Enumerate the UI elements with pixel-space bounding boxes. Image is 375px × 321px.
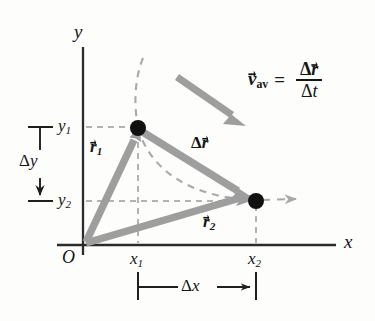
equation-v-symbol: v — [248, 69, 256, 88]
delta-r-base: r — [202, 134, 209, 151]
tick-x1-base: x — [130, 249, 138, 268]
vector-v-av — [177, 77, 246, 126]
delta-x-delta-symbol: Δ — [181, 276, 192, 295]
vectors — [86, 77, 254, 243]
vector-r1-base: r — [90, 138, 97, 155]
vector-label-r1: r 1 — [90, 138, 102, 157]
tick-x2-sub: 2 — [256, 257, 262, 269]
equation-denominator: Δt — [297, 81, 322, 100]
vector-label-delta-r: Δ r — [191, 134, 208, 151]
vector-r2 — [86, 190, 254, 243]
delta-y-symbol: y — [30, 151, 38, 170]
equation-v-term: v av — [248, 69, 268, 91]
vector-r2-sub: 2 — [210, 220, 216, 232]
average-velocity-equation: v av = Δ r — [248, 60, 322, 100]
equation-fraction: Δ r Δt — [296, 60, 322, 100]
numerator-r-symbol: r — [311, 60, 318, 78]
equation-v-subscript: av — [256, 78, 268, 91]
delta-x-symbol: x — [192, 276, 200, 295]
vector-label-r2: r 2 — [203, 213, 215, 232]
vector-r1-sub: 1 — [97, 145, 103, 157]
equation-numerator: Δ r — [296, 60, 322, 79]
denominator-t-symbol: t — [312, 81, 317, 101]
vector-r2-base: r — [203, 213, 210, 230]
delta-x-label: Δx — [181, 277, 199, 294]
tick-y1-sub: 1 — [66, 124, 72, 136]
tick-label-x2: x2 — [248, 250, 261, 269]
delta-r-delta-symbol: Δ — [191, 133, 202, 152]
tick-y1-base: y — [58, 116, 66, 135]
point-2-dot — [248, 193, 264, 209]
diagram-canvas — [0, 0, 375, 321]
delta-y-delta-symbol: Δ — [19, 151, 30, 170]
numerator-delta-symbol: Δ — [300, 59, 311, 79]
equation-equals-sign: = — [274, 69, 285, 91]
origin-label: O — [62, 248, 75, 266]
point-1-dot — [130, 120, 146, 136]
tick-label-y1: y1 — [58, 117, 71, 136]
y-axis-label: y — [74, 22, 82, 41]
delta-y-label: Δy — [19, 152, 37, 169]
tick-x2-base: x — [248, 249, 256, 268]
tick-label-y2: y2 — [58, 191, 71, 210]
tick-x1-sub: 1 — [138, 257, 144, 269]
vector-diagram-figure: y x O y1 y2 x1 x2 r 1 r 2 — [0, 0, 375, 321]
tick-label-x1: x1 — [130, 250, 143, 269]
tick-y2-sub: 2 — [66, 198, 72, 210]
tick-y2-base: y — [58, 190, 66, 209]
x-axis-label: x — [344, 232, 352, 251]
denominator-delta-symbol: Δ — [301, 81, 313, 101]
